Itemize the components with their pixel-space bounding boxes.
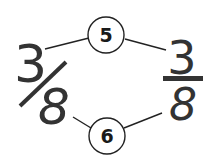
top-node: 5 <box>88 17 124 53</box>
diagram-svg: 5 6 3 8 3 8 <box>0 0 212 162</box>
right-fraction: 3 8 <box>163 31 203 130</box>
right-denominator: 8 <box>169 79 197 130</box>
connector-top-right <box>125 39 166 50</box>
fraction-diagram: 5 6 3 8 3 8 <box>0 0 212 162</box>
connector-bottom-left <box>73 117 91 128</box>
bottom-node: 6 <box>89 118 125 154</box>
bottom-node-label: 6 <box>100 125 113 147</box>
left-denominator: 8 <box>38 78 70 136</box>
connector-bottom-right <box>124 113 162 128</box>
left-fraction: 3 8 <box>14 34 70 136</box>
connector-top-left <box>45 38 89 49</box>
top-node-label: 5 <box>99 24 112 46</box>
